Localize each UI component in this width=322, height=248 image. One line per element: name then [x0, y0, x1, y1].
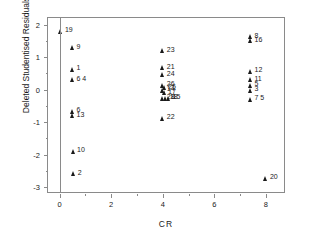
x-axis-minor-tick	[189, 194, 190, 196]
triangle-marker-icon	[248, 97, 252, 102]
y-axis-tick-label: -2	[33, 150, 40, 159]
data-point-label: 9	[77, 43, 81, 51]
data-point-label: 7 5	[255, 94, 265, 102]
triangle-marker-icon	[71, 171, 75, 176]
x-axis-minor-tick	[85, 194, 86, 196]
y-axis-minor-tick	[46, 41, 48, 42]
y-axis-tick	[44, 187, 48, 188]
triangle-marker-icon	[248, 88, 252, 93]
y-axis-tick-label: 2	[36, 20, 40, 29]
triangle-marker-icon	[263, 176, 267, 181]
data-point-label: 22	[167, 113, 175, 121]
data-point-label: 3	[255, 85, 259, 93]
x-axis-tick	[163, 194, 164, 198]
data-point-label: 15	[173, 93, 181, 101]
data-point-label: 12	[255, 66, 263, 74]
data-point-label: 19	[65, 26, 73, 34]
data-point-label: 20	[270, 173, 278, 181]
x-axis-tick-label: 4	[161, 200, 165, 209]
triangle-marker-icon	[166, 96, 170, 101]
y-axis-minor-tick	[46, 138, 48, 139]
x-axis-tick-label: 0	[58, 200, 62, 209]
data-point-label: 16	[255, 36, 263, 44]
reference-line-x0	[60, 18, 61, 192]
y-axis-minor-tick	[46, 73, 48, 74]
triangle-marker-icon	[160, 48, 164, 53]
triangle-marker-icon	[70, 77, 74, 82]
data-point-label: 6 4	[77, 75, 87, 83]
y-axis-tick-label: -1	[33, 118, 40, 127]
y-axis-tick	[44, 57, 48, 58]
data-point-label: 13	[77, 111, 85, 119]
data-layer: 19916 4613102232124262514172818152281612…	[48, 18, 284, 192]
triangle-marker-icon	[160, 72, 164, 77]
y-axis-minor-tick	[46, 171, 48, 172]
y-axis-minor-tick	[46, 106, 48, 107]
triangle-marker-icon	[71, 149, 75, 154]
y-axis-tick-label: 1	[36, 53, 40, 62]
x-axis-tick-label: 6	[212, 200, 216, 209]
scatter-plot: 19916 4613102232124262514172818152281612…	[0, 0, 322, 248]
y-axis-label: Deleted Studentised Residuals	[21, 0, 31, 143]
triangle-marker-icon	[70, 45, 74, 50]
data-point-label: 24	[167, 70, 175, 78]
data-point-label: 23	[167, 46, 175, 54]
triangle-marker-icon	[70, 113, 74, 118]
y-axis-tick	[44, 122, 48, 123]
x-axis-tick-label: 8	[264, 200, 268, 209]
x-axis-tick	[266, 194, 267, 198]
triangle-marker-icon	[248, 38, 252, 43]
data-point-label: 1	[77, 64, 81, 72]
y-axis-tick	[44, 25, 48, 26]
triangle-marker-icon	[160, 65, 164, 70]
y-axis-tick	[44, 90, 48, 91]
plot-frame: 19916 4613102232124262514172818152281612…	[47, 17, 285, 193]
x-axis-tick	[214, 194, 215, 198]
triangle-marker-icon	[70, 67, 74, 72]
x-axis-minor-tick	[137, 194, 138, 196]
triangle-marker-icon	[160, 116, 164, 121]
x-axis-tick-label: 2	[109, 200, 113, 209]
x-axis-label: CR	[47, 219, 285, 229]
data-point-label: 10	[77, 146, 85, 154]
y-axis-tick-label: -3	[33, 183, 40, 192]
triangle-marker-icon	[162, 90, 166, 95]
x-axis-tick	[111, 194, 112, 198]
y-axis-tick	[44, 155, 48, 156]
data-point-label: 2	[78, 169, 82, 177]
y-axis-tick-label: 0	[36, 85, 40, 94]
x-axis-tick	[60, 194, 61, 198]
x-axis-minor-tick	[240, 194, 241, 196]
triangle-marker-icon	[248, 69, 252, 74]
